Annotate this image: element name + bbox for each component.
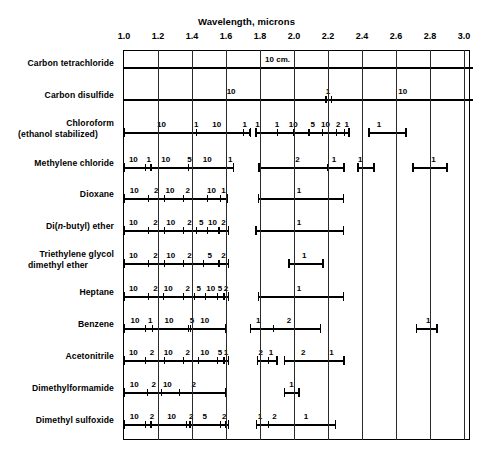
x-tick-1-8: 1.8	[254, 31, 267, 41]
bar-tick	[145, 164, 146, 171]
bar-end-cap	[343, 226, 345, 235]
bar-end-cap	[257, 356, 259, 365]
bar-end-cap	[405, 128, 407, 137]
bar-tick	[218, 227, 219, 234]
bar-tick	[164, 227, 165, 234]
bar-end-cap	[335, 420, 337, 429]
bar-tick	[164, 357, 165, 364]
bar-end-cap	[416, 324, 418, 333]
row-label-line: (ethanol stabilized)	[2, 129, 114, 140]
bar-segment	[124, 67, 473, 69]
bar-tick	[273, 325, 274, 332]
path-length-label: 5	[218, 284, 222, 293]
gridline-1-4	[192, 50, 193, 440]
bar-tick	[277, 129, 278, 136]
path-length-label: 1	[377, 120, 381, 129]
path-length-label: 5	[203, 412, 207, 421]
x-tick-1-4: 1.4	[186, 31, 199, 41]
bar-tick	[217, 293, 218, 300]
path-length-label: 2	[301, 348, 305, 357]
path-length-label: 10	[167, 412, 176, 421]
bar-end-cap	[357, 163, 359, 172]
bar-end-cap	[288, 259, 290, 268]
gridline-2-4	[362, 50, 363, 440]
bar-segment	[124, 392, 226, 394]
bar-end-cap	[250, 324, 252, 333]
gridline-1-8	[260, 50, 261, 440]
bar-end-cap	[258, 292, 260, 301]
path-length-label: 2	[186, 186, 190, 195]
gridline-3-0	[464, 50, 465, 440]
bar-tick	[152, 325, 153, 332]
bar-tick	[161, 389, 162, 396]
row-label-methylene-chloride: Methylene chloride	[2, 158, 114, 169]
bar-end-cap	[368, 128, 370, 137]
bar-tick	[207, 227, 208, 234]
bar-end-cap	[123, 292, 125, 301]
bar-tick	[186, 421, 187, 428]
gridline-2-2	[328, 50, 329, 440]
chart-annotation: 10 cm.	[265, 55, 290, 64]
x-tick-2-6: 2.6	[390, 31, 403, 41]
bar-segment	[369, 132, 406, 134]
path-length-label: 2	[336, 120, 340, 129]
row-label-acetonitrile: Acetonitrile	[2, 351, 114, 362]
bar-tick	[203, 260, 204, 267]
bar-end-cap	[258, 194, 260, 203]
path-length-label: 5	[187, 155, 191, 164]
bar-end-cap	[123, 163, 125, 172]
row-label-di-n-butyl-ether: Di(n-butyl) ether	[2, 221, 114, 232]
path-length-label: 1	[302, 251, 306, 260]
bar-segment	[124, 360, 229, 362]
wavelength-solvent-chart: Wavelength, microns 1.01.21.41.61.82.02.…	[0, 0, 493, 461]
path-length-label: 1	[148, 316, 152, 325]
path-length-label: 10	[212, 120, 221, 129]
path-length-label: 2	[153, 284, 157, 293]
bar-tick	[145, 421, 146, 428]
row-label-benzene: Benzene	[2, 319, 114, 330]
bar-end-cap	[320, 324, 322, 333]
bar-tick	[150, 164, 151, 171]
path-length-label: 1	[221, 186, 225, 195]
bar-segment	[124, 99, 473, 101]
path-length-label: 10	[130, 380, 139, 389]
bar-tick	[196, 227, 197, 234]
bar-end-cap	[123, 194, 125, 203]
path-length-label: 2	[153, 251, 157, 260]
bar-tick	[145, 325, 146, 332]
path-length-label: 1	[228, 155, 232, 164]
path-length-label: 2	[221, 251, 225, 260]
bar-end-cap	[436, 324, 438, 333]
bar-end-cap	[284, 388, 286, 397]
path-length-label: 10	[227, 87, 236, 96]
bar-end-cap	[123, 226, 125, 235]
bar-segment	[256, 230, 344, 232]
row-label-carbon-tetrachloride: Carbon tetrachloride	[2, 58, 114, 69]
path-length-label: 1	[297, 218, 301, 227]
bar-end-cap	[343, 163, 345, 172]
bar-segment	[251, 328, 321, 330]
gridline-2-0	[294, 50, 295, 440]
bar-tick	[223, 357, 224, 364]
path-length-label: 2	[187, 251, 191, 260]
bar-tick	[336, 129, 337, 136]
bar-end-cap	[343, 292, 345, 301]
bar-tick	[148, 293, 149, 300]
bar-end-cap	[227, 194, 229, 203]
bar-end-cap	[348, 128, 350, 137]
gridline-1-6	[226, 50, 227, 440]
bar-tick	[148, 195, 149, 202]
path-length-label: 10	[129, 218, 138, 227]
path-length-label: 10	[203, 155, 212, 164]
bar-end-cap	[228, 226, 230, 235]
row-label-dimethyl-sulfoxide: Dimethyl sulfoxide	[2, 415, 114, 426]
bar-end-cap	[412, 163, 414, 172]
path-length-label: 10	[200, 316, 209, 325]
path-length-label: 1	[275, 120, 279, 129]
path-length-label: 2	[221, 218, 225, 227]
bar-end-cap	[343, 356, 345, 365]
bar-segment	[416, 328, 436, 330]
bar-segment	[124, 328, 226, 330]
path-length-label: 10	[129, 155, 138, 164]
bar-tick	[183, 260, 184, 267]
